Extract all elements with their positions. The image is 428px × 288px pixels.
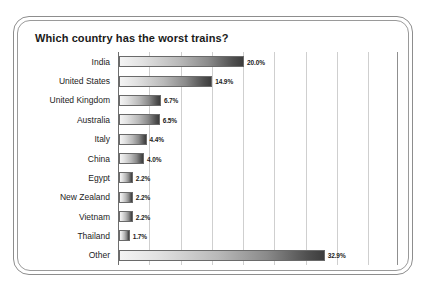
bar[interactable]	[119, 153, 144, 164]
bar-row[interactable]: 2.2%	[119, 192, 399, 203]
bar[interactable]	[119, 250, 325, 261]
bar-value-label: 32.9%	[328, 252, 346, 259]
category-label: India	[92, 57, 110, 67]
bar-value-label: 1.7%	[133, 232, 147, 239]
bar[interactable]	[119, 134, 147, 145]
category-label: Other	[89, 250, 110, 260]
category-label: Australia	[77, 115, 110, 125]
category-label: United Kingdom	[50, 95, 110, 105]
chart-frame-inner-border: Which country has the worst trains? Indi…	[17, 20, 409, 271]
bar[interactable]	[119, 56, 244, 67]
bar-row[interactable]: 20.0%	[119, 56, 399, 67]
bar-row[interactable]: 14.9%	[119, 76, 399, 87]
bar-value-label: 4.4%	[150, 136, 164, 143]
bar-value-label: 2.2%	[136, 194, 150, 201]
bar-value-label: 14.9%	[215, 78, 233, 85]
bar-value-label: 2.2%	[136, 213, 150, 220]
bar-value-label: 20.0%	[247, 58, 265, 65]
bar-value-label: 4.0%	[147, 155, 161, 162]
plot-area: IndiaUnited StatesUnited KingdomAustrali…	[31, 52, 399, 265]
category-label: Italy	[94, 134, 110, 144]
bar-row[interactable]: 6.5%	[119, 114, 399, 125]
category-label: Vietnam	[79, 212, 110, 222]
bar[interactable]	[119, 192, 133, 203]
bar-value-label: 6.7%	[164, 97, 178, 104]
chart-frame: Which country has the worst trains? Indi…	[13, 16, 413, 275]
bar[interactable]	[119, 95, 161, 106]
category-label: United States	[59, 76, 110, 86]
bar-row[interactable]: 2.2%	[119, 172, 399, 183]
bar[interactable]	[119, 114, 160, 125]
bar[interactable]	[119, 230, 130, 241]
bar-row[interactable]: 6.7%	[119, 95, 399, 106]
bar-value-label: 6.5%	[163, 116, 177, 123]
category-label: Egypt	[88, 173, 110, 183]
category-label: New Zealand	[60, 192, 110, 202]
bar[interactable]	[119, 172, 133, 183]
bar-value-label: 2.2%	[136, 174, 150, 181]
category-label: Thailand	[77, 231, 110, 241]
bar[interactable]	[119, 76, 212, 87]
bar-row[interactable]: 1.7%	[119, 230, 399, 241]
bars-region: 20.0%14.9%6.7%6.5%4.4%4.0%2.2%2.2%2.2%1.…	[118, 52, 399, 265]
bar[interactable]	[119, 211, 133, 222]
bar-row[interactable]: 4.4%	[119, 134, 399, 145]
chart-title: Which country has the worst trains?	[35, 32, 229, 44]
bar-row[interactable]: 4.0%	[119, 153, 399, 164]
bar-row[interactable]: 32.9%	[119, 250, 399, 261]
bar-row[interactable]: 2.2%	[119, 211, 399, 222]
category-label: China	[88, 154, 110, 164]
category-axis-labels: IndiaUnited StatesUnited KingdomAustrali…	[31, 52, 114, 265]
